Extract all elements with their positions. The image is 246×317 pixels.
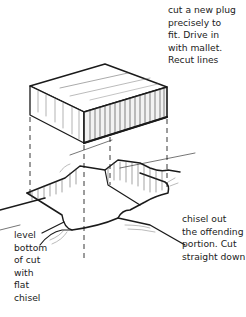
caption-chisel-out: chisel out the offending portion. Cut st… <box>182 213 246 263</box>
plug-block <box>30 64 167 143</box>
caption-cut-new-plug: cut a new plug precisely to fit. Drive i… <box>168 4 246 67</box>
caption-level-bottom: level bottom of cut with flat chisel <box>14 229 54 305</box>
